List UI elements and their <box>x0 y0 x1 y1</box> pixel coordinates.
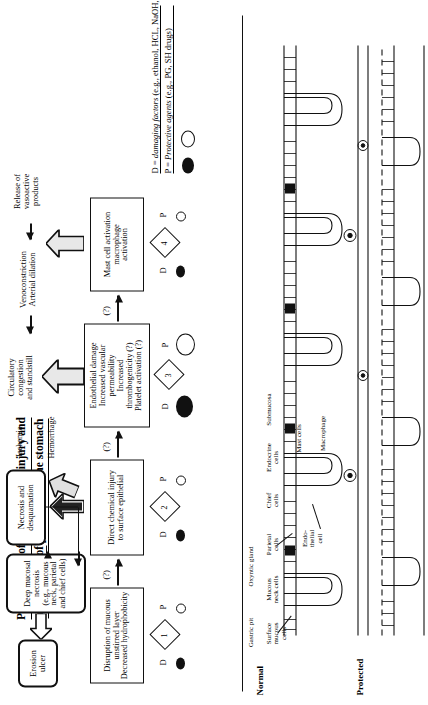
gastric-pit-label: Gastric pit <box>248 605 255 659</box>
legend-damaging: D = damaging factors (e.g., ethanol, HCL… <box>150 5 161 173</box>
step-number-3: 3 <box>158 365 178 385</box>
dp-label-p-4: P <box>158 212 168 217</box>
long-connector-vertical <box>46 506 78 507</box>
damaging-dot-4 <box>176 265 185 277</box>
dp-label-d-1: D <box>158 659 168 665</box>
dp-label-d-4: D <box>158 267 168 273</box>
anatomy-top-rule <box>242 15 243 691</box>
legend-damaging-dot <box>182 157 194 173</box>
question-mark-1: (?) <box>101 570 111 579</box>
legend-damaging-rest: (e.g., ethanol, HCL, NaOH, aspirin) <box>150 0 160 97</box>
flow-box-2-label: Direct chemical injury to surface epithe… <box>108 463 126 551</box>
flow-box-3[interactable]: Endothelial damage Increased vascular pe… <box>84 323 150 427</box>
damaging-dot-1 <box>176 657 185 669</box>
protective-dot-4 <box>176 211 186 221</box>
legend-protective-rest: (e.g., PG, SH drugs) <box>163 28 173 100</box>
flow-box-1[interactable]: Disruption of mucous unstirred layer Dec… <box>90 587 144 683</box>
oxyntic-gland-label: Oxyntic gland <box>248 535 255 597</box>
flow-box-4-label: Mast cell activation macrophage activati… <box>104 201 131 287</box>
damaging-dot-3 <box>176 395 193 417</box>
mucous-neck-cells-label: Mucous neck cells <box>266 567 281 611</box>
connector-3-4 <box>117 295 119 321</box>
damaging-dot-2 <box>176 529 185 541</box>
deep-mucosal-necrosis-label: Deep mucosal necrosis (e.g., mucous neck… <box>24 558 68 608</box>
chief-cells-label: Chief cells <box>266 481 281 519</box>
legend: D = damaging factors (e.g., ethanol, HCL… <box>150 5 196 173</box>
question-mark-2: (?) <box>101 442 111 451</box>
normal-mucosa-drawing <box>280 0 376 705</box>
block-arrow-to-circulatory <box>42 359 84 393</box>
legend-protective-dot <box>181 130 195 147</box>
dp-label-p-1: P <box>158 604 168 609</box>
flow-box-3-label: Endothelial damage Increased vascular pe… <box>90 327 144 423</box>
connector-2-3 <box>117 431 119 457</box>
legend-damaging-key: D = <box>150 158 160 173</box>
connector-venoconstriction-circulatory <box>30 315 32 333</box>
protective-dot-1 <box>176 603 186 613</box>
step-number-1: 1 <box>154 625 174 645</box>
step-number-2: 2 <box>154 497 174 517</box>
flow-box-2[interactable]: Direct chemical injury to surface epithe… <box>90 459 144 555</box>
protective-dot-3 <box>176 333 195 355</box>
block-arrow-to-vasoactive <box>46 229 84 257</box>
long-connector-arrowhead <box>78 551 80 565</box>
ischemia-label: Ischemia <box>16 413 25 469</box>
legend-protective-emphasis: Protective agents <box>163 100 173 160</box>
long-connector-horizontal <box>78 507 79 553</box>
protected-mucosa-drawing <box>376 0 428 705</box>
legend-damaging-emphasis: damaging factors <box>150 97 160 157</box>
block-arrow-to-erosion <box>30 613 52 639</box>
necrosis-desquamation-label: Necrosis and desquamation <box>17 474 35 540</box>
legend-swatches <box>178 5 196 173</box>
protective-dot-2 <box>176 475 186 485</box>
endocrine-cells-label: Endocrine cells <box>266 435 281 479</box>
panel-label-normal: Normal <box>256 645 265 695</box>
legend-protective: P = Protective agents (e.g., PG, SH drug… <box>163 5 174 173</box>
venoconstriction-label: Venoconstriction Arterial dilation <box>20 239 38 319</box>
connector-vasoactive-venoconstriction <box>30 223 32 239</box>
circulatory-congestion-label: Circulatory congestion and standstill <box>8 331 35 423</box>
flow-box-4[interactable]: Mast cell activation macrophage activati… <box>90 197 144 291</box>
release-vasoactive-label: Release of vasoactive products <box>14 155 41 227</box>
flow-box-1-label: Disruption of mucous unstirred layer Dec… <box>104 591 131 679</box>
necrosis-desquamation-box[interactable]: Necrosis and desquamation <box>6 469 46 545</box>
dp-label-p-2: P <box>158 476 168 481</box>
question-mark-3: (?) <box>101 306 111 315</box>
dp-label-p-3: P <box>160 342 170 347</box>
dp-label-d-2: D <box>158 531 168 537</box>
connector-1-2 <box>117 559 119 585</box>
dp-label-d-3: D <box>160 403 170 409</box>
erosion-ulcer-label: Erosion ulcer <box>29 644 48 682</box>
erosion-ulcer-box[interactable]: Erosion ulcer <box>18 639 58 687</box>
anatomy-panel: Normal Protected Gastric pit Oxyntic gla… <box>236 0 422 705</box>
hemorrhage-label: Hemorrhage <box>48 405 57 469</box>
legend-protective-key: P = <box>163 159 173 173</box>
submucosa-label: Submucosa <box>266 385 273 433</box>
step-number-4: 4 <box>154 233 174 253</box>
